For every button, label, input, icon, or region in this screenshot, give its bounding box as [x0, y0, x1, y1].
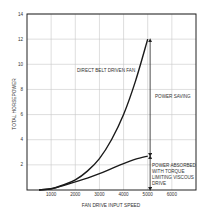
x-axis-label: FAN DRIVE INPUT SPEED [82, 203, 141, 208]
belt-fan-label: DIRECT BELT DRIVEN FAN [77, 68, 135, 73]
power-saving-label: POWER SAVING [155, 94, 191, 99]
viscous-drive-curve [39, 156, 148, 190]
power-absorbed-label-2: WITH TORQUE [152, 169, 185, 174]
power-absorbed-label-4: DRIVE [152, 181, 166, 186]
power-absorbed-label-1: POWER ABSORBED [152, 163, 197, 168]
y-tick-label: 2 [20, 162, 23, 167]
x-tick-label: 6000 [167, 192, 178, 197]
y-axis-label: TOTAL HORSEPOWER [12, 78, 17, 130]
x-tick-label: 2000 [70, 192, 81, 197]
y-tick-label: 4 [20, 137, 23, 142]
x-tick-label: 5000 [143, 192, 154, 197]
power-absorbed-label-3: LIMITING VISCOUS [152, 175, 194, 180]
horsepower-chart: 1000200030004000500060002468101214 FAN D… [0, 0, 207, 210]
y-tick-label: 8 [20, 87, 23, 92]
x-tick-label: 1000 [46, 192, 57, 197]
y-tick-label: 10 [18, 62, 24, 67]
x-tick-label: 4000 [118, 192, 129, 197]
y-tick-label: 6 [20, 112, 23, 117]
y-tick-label: 12 [18, 37, 24, 42]
x-tick-label: 3000 [94, 192, 105, 197]
y-tick-label: 14 [18, 12, 24, 17]
